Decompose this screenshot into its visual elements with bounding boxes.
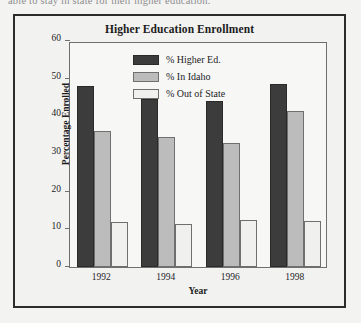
page-body-text-fragment: able to stay in state for their higher e… [8, 0, 348, 6]
bar[interactable] [175, 224, 192, 267]
legend-color-swatch [133, 55, 159, 65]
y-tick-label: 60 [52, 33, 62, 43]
legend-color-swatch [133, 72, 159, 82]
y-tick-label: 20 [52, 184, 62, 194]
legend-item[interactable]: % Out of State [133, 86, 225, 101]
y-tick: 30 [38, 153, 70, 154]
bar[interactable] [111, 222, 128, 267]
y-tick-mark [65, 40, 70, 41]
y-tick: 40 [38, 115, 70, 116]
y-tick: 0 [38, 266, 70, 267]
bar[interactable] [287, 111, 304, 267]
y-tick: 50 [38, 78, 70, 79]
legend-item[interactable]: % In Idaho [133, 69, 225, 84]
bar[interactable] [77, 86, 94, 267]
bar[interactable] [158, 137, 175, 267]
legend-item[interactable]: % Higher Ed. [133, 52, 225, 67]
legend-label: % In Idaho [166, 71, 210, 82]
legend-color-swatch [133, 89, 159, 99]
y-tick: 20 [38, 191, 70, 192]
x-tick-label: 1996 [200, 272, 260, 282]
legend-label: % Out of State [166, 88, 225, 99]
y-tick-label: 30 [52, 146, 62, 156]
bar[interactable] [304, 221, 321, 267]
y-tick-label: 0 [56, 259, 61, 269]
y-tick-label: 50 [52, 71, 62, 81]
x-axis-title: Year [69, 286, 327, 296]
x-tick-label: 1994 [136, 272, 196, 282]
legend-label: % Higher Ed. [166, 54, 221, 65]
figure-frame: Higher Education Enrollment Percentage E… [13, 14, 346, 308]
bar[interactable] [94, 131, 111, 267]
bar[interactable] [240, 220, 257, 267]
y-tick-label: 10 [52, 221, 62, 231]
x-tick-label: 1998 [265, 272, 325, 282]
y-tick: 10 [38, 228, 70, 229]
chart-title: Higher Education Enrollment [15, 23, 344, 35]
x-tick-label: 1992 [71, 272, 131, 282]
y-tick: 60 [38, 40, 70, 41]
bar[interactable] [270, 84, 287, 267]
bar[interactable] [206, 101, 223, 267]
bar[interactable] [223, 143, 240, 267]
chart-legend: % Higher Ed.% In Idaho% Out of State [133, 52, 225, 103]
bar[interactable] [141, 99, 158, 267]
bar-group [77, 43, 128, 267]
y-tick-label: 40 [52, 108, 62, 118]
bar-group [270, 43, 321, 267]
figure-inner: Higher Education Enrollment Percentage E… [15, 16, 344, 306]
